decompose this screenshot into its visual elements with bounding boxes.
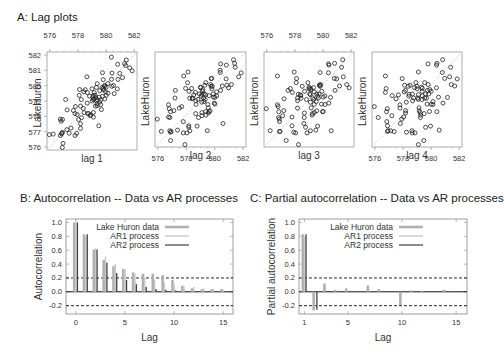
tick-label: 1.0 [285, 218, 295, 227]
legend-label: AR2 process [110, 240, 159, 250]
tick-label: 579 [28, 97, 41, 106]
data-point [333, 61, 337, 65]
data-point [90, 87, 94, 91]
data-point [110, 71, 114, 75]
data-point [264, 107, 268, 111]
data-point [65, 108, 69, 112]
data-point [186, 70, 190, 74]
data-point [91, 115, 95, 119]
tick-label: 10 [170, 318, 178, 327]
data-point [390, 94, 394, 98]
data-point [376, 116, 380, 120]
data-point [215, 90, 219, 94]
data-point [437, 95, 441, 99]
data-point [85, 101, 89, 105]
tick-label: 582 [28, 51, 41, 60]
tick-label: 0.2 [285, 273, 295, 282]
lag-plot-4 [372, 52, 462, 150]
data-point [405, 130, 409, 134]
data-point [394, 97, 398, 101]
data-point [277, 110, 281, 114]
data-point [443, 76, 447, 80]
tick-label: 580 [100, 31, 113, 40]
y-axis-title: LakeHuron [249, 77, 260, 126]
bar-ar2-process [87, 234, 88, 292]
bar-ar1-process [115, 264, 116, 292]
data-point [303, 89, 307, 93]
data-point [281, 114, 285, 118]
data-point [441, 58, 445, 62]
bar-lake-huron-data [377, 289, 380, 292]
data-point [101, 78, 105, 82]
data-point [181, 120, 185, 124]
tick-label: 10 [398, 318, 406, 327]
data-point [383, 74, 387, 78]
bar-ar2-process [106, 263, 107, 292]
data-point [308, 129, 312, 133]
x-axis-title: Lag [141, 332, 158, 343]
data-point [194, 112, 198, 116]
data-point [77, 93, 81, 97]
tick-label: 5 [346, 318, 350, 327]
data-point [182, 74, 186, 78]
data-point [333, 88, 337, 92]
data-point [99, 108, 103, 112]
data-point [429, 124, 433, 128]
bar-ar1-process [95, 248, 96, 292]
bar-ar2-process [136, 284, 137, 292]
data-point [64, 98, 68, 102]
bar-lake-huron-data [93, 250, 96, 292]
data-point [446, 95, 450, 99]
y-axis-title: Partial autocorrelation [266, 218, 277, 315]
data-point [128, 66, 132, 70]
tick-label: 576 [261, 31, 274, 40]
data-point [85, 75, 89, 79]
bar-lake-huron-data [410, 290, 413, 291]
data-point [173, 96, 177, 100]
data-point [176, 128, 180, 132]
data-point [425, 102, 429, 106]
bar-ar2-process [175, 290, 176, 291]
data-point [60, 146, 64, 150]
data-point [327, 101, 331, 105]
y-axis-title: LakeHuron [357, 77, 368, 126]
bar-lake-huron-data [334, 290, 337, 292]
tick-label: -0.2 [282, 301, 295, 310]
x-axis-title: Lag [375, 332, 392, 343]
data-point [400, 77, 404, 81]
data-point [51, 132, 55, 136]
x-axis-title: lag 1 [81, 153, 103, 164]
data-point [424, 125, 428, 129]
data-point [79, 126, 83, 130]
data-point [219, 62, 223, 66]
tick-label: 0.2 [52, 273, 62, 282]
data-point [317, 83, 321, 87]
data-point [295, 77, 299, 81]
data-point [79, 122, 83, 126]
data-point [94, 85, 98, 89]
data-point [304, 125, 308, 129]
data-point [275, 74, 279, 78]
data-point [341, 75, 345, 79]
data-point [106, 82, 110, 86]
data-point [416, 143, 420, 147]
data-point [224, 77, 228, 81]
tick-label: 581 [28, 66, 41, 75]
data-point [386, 124, 390, 128]
data-point [338, 84, 342, 88]
bar-lake-huron-data [210, 289, 213, 292]
data-point [79, 104, 83, 108]
bar-ar1-process [154, 280, 155, 292]
bar-ar1-process [223, 290, 224, 292]
data-point [237, 75, 241, 79]
data-point [224, 63, 228, 67]
bar-ar2-process [195, 291, 196, 292]
data-point [69, 126, 73, 130]
y-axis-title: LakeHuron [140, 77, 151, 126]
bar-ar2-process [165, 290, 166, 292]
bar-lake-huron-data [191, 288, 194, 291]
tick-label: 582 [345, 31, 358, 40]
tick-label: 0.4 [285, 260, 295, 269]
data-point [422, 139, 426, 143]
